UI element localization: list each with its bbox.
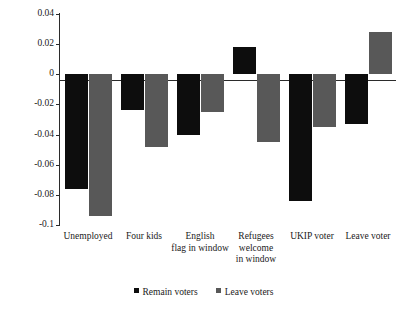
bar-leave-2 [201, 74, 224, 112]
y-axis-tick-mark [56, 195, 59, 196]
legend-item-0: Remain voters [134, 286, 198, 297]
y-axis-tick-label: -0.06 [34, 160, 54, 170]
y-axis-tick-label: -0.08 [34, 190, 54, 200]
bar-remain-3 [233, 47, 256, 74]
legend-item-1: Leave voters [216, 286, 274, 297]
bar-remain-4 [289, 74, 312, 201]
y-axis-tick-label: 0.04 [37, 9, 54, 19]
x-axis-label-line: UKIP voter [280, 231, 344, 243]
x-axis-label-4: UKIP voter [280, 231, 344, 243]
legend-label: Remain voters [143, 287, 198, 297]
x-axis-label-line: in window [224, 254, 288, 266]
y-axis-tick-mark [56, 44, 59, 45]
x-axis-label-line: Leave voter [336, 231, 400, 243]
x-axis-label-line: welcome [224, 243, 288, 255]
bar-leave-3 [257, 74, 280, 142]
y-axis-tick-label: -0.1 [39, 220, 54, 230]
y-axis-tick-label: 0.02 [37, 39, 54, 49]
x-axis-label-5: Leave voter [336, 231, 400, 243]
x-axis-label-0: Unemployed [56, 231, 120, 243]
bar-remain-5 [345, 74, 368, 124]
y-axis-tick-mark [56, 225, 59, 226]
y-axis-tick-mark [56, 74, 59, 75]
bar-leave-1 [145, 74, 168, 146]
y-axis-tick-label: 0 [49, 70, 54, 80]
y-axis-tick-mark [56, 165, 59, 166]
x-axis-label-line: Four kids [112, 231, 176, 243]
legend-swatch-icon [134, 288, 139, 293]
bar-leave-0 [89, 74, 112, 216]
y-axis-tick-label: -0.04 [34, 130, 54, 140]
bar-chart: 0.040.020-0.02-0.04-0.06-0.08-0.1 Unempl… [0, 0, 407, 315]
y-axis-tick-mark [56, 14, 59, 15]
bar-remain-2 [177, 74, 200, 134]
x-axis-label-line: English [168, 231, 232, 243]
y-axis-tick-labels: 0.040.020-0.02-0.04-0.06-0.08-0.1 [0, 0, 54, 315]
legend-label: Leave voters [225, 287, 274, 297]
bar-remain-1 [121, 74, 144, 110]
y-axis-tick-mark [56, 104, 59, 105]
bar-remain-0 [65, 74, 88, 189]
bar-leave-4 [313, 74, 336, 127]
x-axis-label-3: Refugeeswelcomein window [224, 231, 288, 266]
x-axis-label-line: flag in window [168, 243, 232, 255]
x-axis-label-2: Englishflag in window [168, 231, 232, 254]
x-axis-label-line: Refugees [224, 231, 288, 243]
legend-swatch-icon [216, 288, 221, 293]
y-axis-tick-label: -0.02 [34, 100, 54, 110]
y-axis-tick-mark [56, 135, 59, 136]
plot-area [60, 14, 396, 225]
chart-legend: Remain votersLeave voters [0, 286, 407, 297]
x-axis-label-line: Unemployed [56, 231, 120, 243]
bar-leave-5 [369, 32, 392, 74]
x-axis-label-1: Four kids [112, 231, 176, 243]
